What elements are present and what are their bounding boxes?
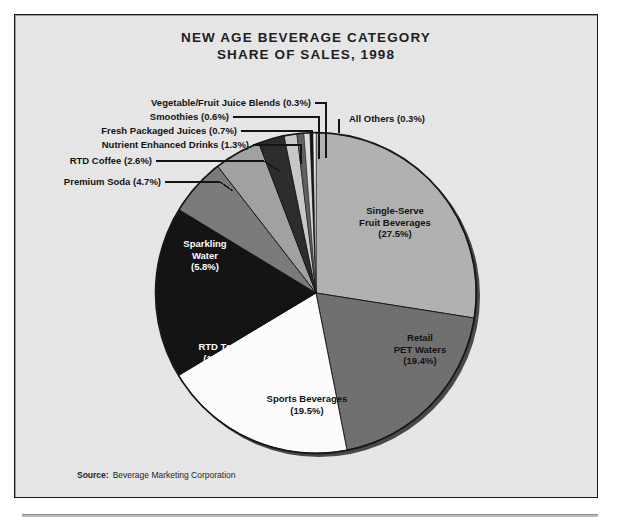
slice-label-sparkling-water: Sparkling Water (5.8%)	[157, 238, 253, 273]
retail-pet-line-1: Retail	[366, 332, 474, 344]
slice-label-all-others: All Others (0.3%)	[349, 113, 425, 125]
chart-title: NEW AGE BEVERAGE CATEGORY SHARE OF SALES…	[15, 29, 597, 63]
slice-label-single-serve-fruit-beverages: Single-Serve Fruit Beverages (27.5%)	[331, 205, 459, 240]
source-label: Source:	[77, 470, 109, 480]
slice-label-retail-pet-waters: Retail PET Waters (19.4%)	[366, 332, 474, 367]
source-note: Source:Beverage Marketing Corporation	[77, 470, 236, 480]
sparkling-line-1: Sparkling	[157, 238, 253, 250]
chart-title-line-2: SHARE OF SALES, 1998	[15, 46, 597, 63]
retail-pet-line-3: (19.4%)	[366, 355, 474, 367]
sports-line-2: (19.5%)	[233, 405, 381, 417]
slice-label-nutrient-enhanced-drinks: Nutrient Enhanced Drinks (1.3%)	[39, 139, 249, 151]
chart-frame: NEW AGE BEVERAGE CATEGORY SHARE OF SALES…	[14, 14, 598, 498]
slice-label-smoothies: Smoothies (0.6%)	[55, 111, 229, 123]
slice-label-rtd-teas: RTD Teas (17.3%)	[165, 341, 275, 364]
single-serve-line-3: (27.5%)	[331, 228, 459, 240]
sparkling-line-3: (5.8%)	[157, 261, 253, 273]
sparkling-line-2: Water	[157, 250, 253, 262]
slice-label-rtd-coffee: RTD Coffee (2.6%)	[39, 155, 152, 167]
single-serve-line-2: Fruit Beverages	[331, 217, 459, 229]
slice-label-fresh-packaged-juices: Fresh Packaged Juices (0.7%)	[45, 125, 237, 137]
sports-line-1: Sports Beverages	[233, 393, 381, 405]
single-serve-line-1: Single-Serve	[331, 205, 459, 217]
page-divider-rule	[22, 514, 598, 517]
slice-label-vegetable-fruit-juice-blends: Vegetable/Fruit Juice Blends (0.3%)	[55, 97, 311, 109]
pie-chart: Vegetable/Fruit Juice Blends (0.3%) Smoo…	[15, 15, 599, 499]
pie-svg	[15, 15, 599, 499]
slice-label-premium-soda: Premium Soda (4.7%)	[27, 176, 161, 188]
chart-title-line-1: NEW AGE BEVERAGE CATEGORY	[15, 29, 597, 46]
rtd-teas-line-1: RTD Teas	[165, 341, 275, 353]
rtd-teas-line-2: (17.3%)	[165, 353, 275, 365]
retail-pet-line-2: PET Waters	[366, 344, 474, 356]
source-value: Beverage Marketing Corporation	[113, 470, 236, 480]
slice-label-sports-beverages: Sports Beverages (19.5%)	[233, 393, 381, 416]
